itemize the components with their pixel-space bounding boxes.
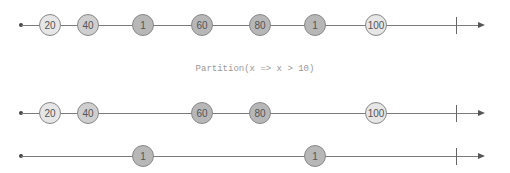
marble: 40 xyxy=(77,102,99,124)
marble-value: 20 xyxy=(44,108,55,119)
marble: 80 xyxy=(249,14,271,36)
marble-value: 60 xyxy=(196,20,207,31)
marble: 20 xyxy=(39,102,61,124)
arrow-head-icon xyxy=(478,22,485,28)
completion-tick xyxy=(456,148,457,165)
marble-value: 100 xyxy=(368,20,385,31)
marble-value: 1 xyxy=(140,151,146,162)
marble-value: 40 xyxy=(82,20,93,31)
source-timeline: 20 40 1 60 80 1 100 xyxy=(0,11,510,41)
marble: 80 xyxy=(249,102,271,124)
marble: 60 xyxy=(191,102,213,124)
arrow-head-icon xyxy=(478,110,485,116)
marble: 1 xyxy=(304,14,326,36)
marble: 20 xyxy=(39,14,61,36)
marble-value: 80 xyxy=(254,20,265,31)
matching-timeline: 20 40 60 80 100 xyxy=(0,99,510,129)
marble-value: 1 xyxy=(312,151,318,162)
marble: 1 xyxy=(304,145,326,167)
marble: 40 xyxy=(77,14,99,36)
marble: 60 xyxy=(191,14,213,36)
completion-tick xyxy=(456,105,457,122)
marble-value: 1 xyxy=(140,20,146,31)
completion-tick xyxy=(456,17,457,34)
marble: 1 xyxy=(132,14,154,36)
marble-value: 40 xyxy=(82,108,93,119)
marble-value: 1 xyxy=(312,20,318,31)
marble: 100 xyxy=(365,14,387,36)
marble: 100 xyxy=(365,102,387,124)
timeline-line xyxy=(21,156,479,157)
operator-label: Partition(x => x > 10) xyxy=(0,64,510,74)
marble: 1 xyxy=(132,145,154,167)
marble-value: 60 xyxy=(196,108,207,119)
arrow-head-icon xyxy=(478,153,485,159)
marble-value: 100 xyxy=(368,108,385,119)
marble-value: 80 xyxy=(254,108,265,119)
non-matching-timeline: 1 1 xyxy=(0,142,510,172)
marble-value: 20 xyxy=(44,20,55,31)
